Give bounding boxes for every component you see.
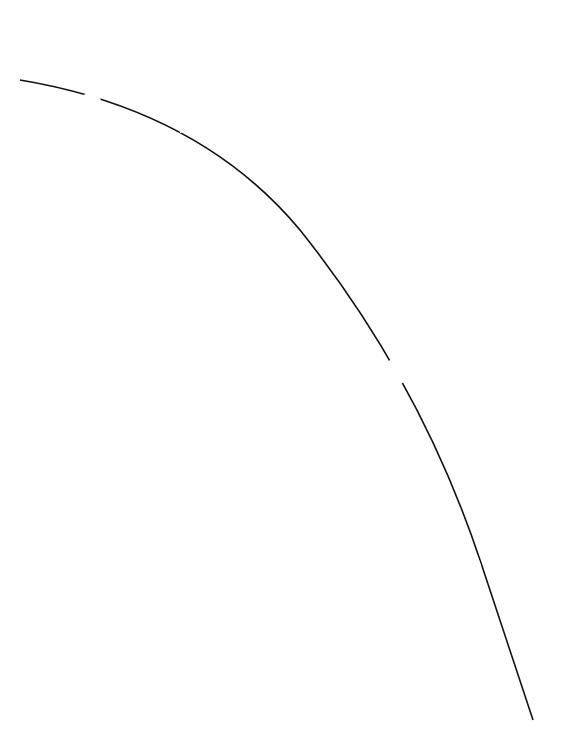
specific-volume-label-15 (69, 90, 102, 112)
specific-volume-title (177, 75, 345, 133)
psychrometric-chart (0, 0, 575, 735)
rh-label-40 (387, 356, 411, 385)
specific-volume-label-13 (449, 554, 482, 576)
rh-label-20 (445, 355, 465, 384)
rh-label-60 (328, 368, 354, 396)
specific-volume-label-14 (311, 304, 344, 328)
rh-label-30 (413, 356, 436, 385)
rh-label-70 (307, 377, 334, 405)
rh-label-50 (354, 359, 380, 388)
